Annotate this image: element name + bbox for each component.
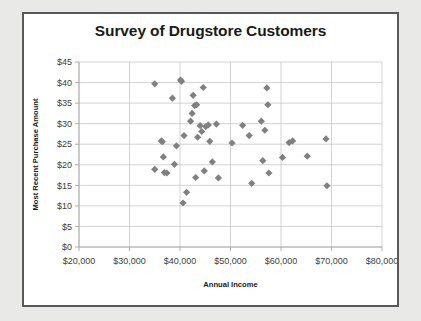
y-tick-label: $25: [57, 139, 72, 149]
y-tick-label: $40: [57, 78, 72, 88]
data-point-marker: [279, 154, 286, 161]
data-point-marker: [246, 132, 253, 139]
data-point-marker: [173, 142, 180, 149]
data-point-marker: [228, 139, 235, 146]
data-point-marker: [323, 182, 330, 189]
data-point-marker: [151, 80, 158, 87]
x-tick-label: $60,000: [265, 256, 298, 266]
x-tick-label: $30,000: [113, 256, 146, 266]
data-point-marker: [160, 153, 167, 160]
x-tick-label: $20,000: [63, 256, 96, 266]
data-point-marker: [322, 135, 329, 142]
y-tick-label: $35: [57, 98, 72, 108]
y-axis-title: Most Recent Purchase Amount: [31, 98, 40, 210]
y-tick-label: $10: [57, 201, 72, 211]
data-point-marker: [169, 95, 176, 102]
data-point-marker: [190, 92, 197, 99]
data-point-marker: [215, 174, 222, 181]
x-tick-label: $80,000: [366, 256, 397, 266]
data-point-marker: [304, 153, 311, 160]
x-tick-label: $70,000: [315, 256, 348, 266]
y-tick-label: $45: [57, 57, 72, 67]
scatter-plot: $0$5$10$15$20$25$30$35$40$45$20,000$30,0…: [24, 14, 397, 305]
y-tick-label: $0: [62, 242, 72, 252]
data-point-marker: [239, 122, 246, 129]
data-point-marker: [194, 134, 201, 141]
data-point-marker: [261, 127, 268, 134]
data-point-marker: [198, 128, 205, 135]
data-point-marker: [192, 174, 199, 181]
data-point-marker: [180, 132, 187, 139]
data-point-marker: [197, 122, 204, 129]
data-point-marker: [201, 167, 208, 174]
data-point-marker: [189, 110, 196, 117]
x-axis-title: Annual Income: [203, 280, 257, 289]
data-point-marker: [151, 166, 158, 173]
y-tick-label: $20: [57, 160, 72, 170]
data-point-marker: [263, 84, 270, 91]
y-tick-label: $15: [57, 181, 72, 191]
y-tick-label: $30: [57, 119, 72, 129]
data-point-marker: [213, 120, 220, 127]
data-point-marker: [264, 101, 271, 108]
x-tick-label: $40,000: [164, 256, 197, 266]
x-tick-label: $50,000: [214, 256, 247, 266]
data-point-marker: [171, 161, 178, 168]
data-point-marker: [183, 189, 190, 196]
data-point-marker: [248, 180, 255, 187]
data-point-marker: [200, 84, 207, 91]
chart-frame: Survey of Drugstore Customers $0$5$10$15…: [22, 12, 399, 307]
data-point-marker: [259, 157, 266, 164]
data-point-marker: [265, 169, 272, 176]
y-tick-label: $5: [62, 222, 72, 232]
